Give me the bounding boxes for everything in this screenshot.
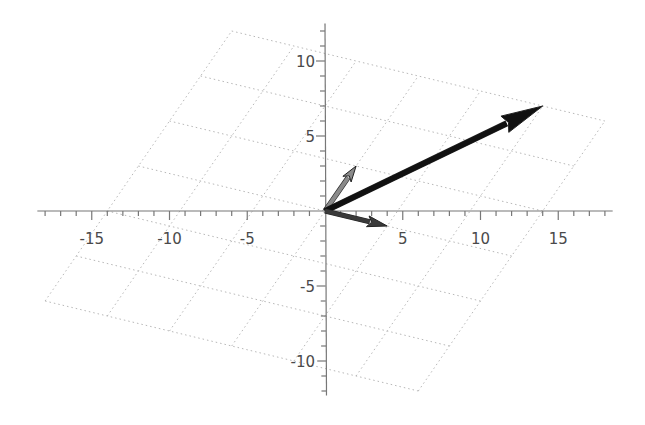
grid-line [45,301,418,391]
y-tick-label: 5 [305,128,315,146]
grid-line [170,61,357,331]
y-tick-label: -10 [291,353,316,371]
x-tick-label: 5 [398,230,408,248]
grid-line [232,31,605,121]
vector-combination [325,106,543,211]
x-tick-label: 10 [471,230,490,248]
vector-plot: -15-10-551015 -10-5510 [0,0,645,425]
x-tick-labels: -15-10-551015 [80,230,568,248]
x-tick-label: -15 [80,230,105,248]
grid-line [418,121,605,391]
x-tick-label: -10 [157,230,182,248]
x-tick-label: 15 [549,230,568,248]
x-tick-label: -5 [240,230,255,248]
vector-shaft [325,211,370,222]
arrowhead-icon [501,106,543,132]
y-tick-label: -5 [300,278,315,296]
y-tick-label: 10 [296,53,315,71]
